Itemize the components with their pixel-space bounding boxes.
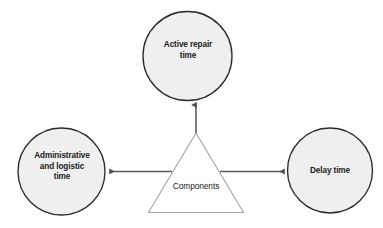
diagram-graphics: [0, 0, 383, 228]
node-circle-administrative-logistic-time: [18, 128, 105, 215]
components-triangle: [149, 133, 244, 213]
node-circle-active-repair-time: [143, 12, 232, 101]
diagram-canvas: Active repair time Administrative and lo…: [0, 0, 383, 228]
node-circle-delay-time: [288, 128, 373, 213]
